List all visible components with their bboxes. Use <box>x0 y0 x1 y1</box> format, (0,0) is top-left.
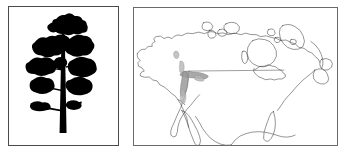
figure-plate: Line outline map of North America includ… <box>0 0 343 154</box>
tree-silhouette-shape <box>25 13 96 133</box>
arctic-small-island-a <box>267 29 275 36</box>
alaska-coastline <box>137 53 185 104</box>
baja-california <box>182 111 201 145</box>
great-bear-lake <box>202 22 213 31</box>
range-coastal-bc <box>179 61 184 73</box>
hudson-bay <box>247 39 277 67</box>
north-america-map-image: Line outline map of North America includ… <box>134 8 337 145</box>
mexico-west-coastline <box>196 116 231 145</box>
newfoundland <box>320 58 333 70</box>
arctic-coastline <box>137 32 319 63</box>
us-canada-border <box>189 70 285 71</box>
great-lakes <box>253 65 285 80</box>
labrador-coastline <box>311 42 323 69</box>
distribution-map-panel: Line outline map of North America includ… <box>133 7 338 146</box>
baffin-island <box>279 24 304 49</box>
lake-winnipeg <box>242 51 248 64</box>
florida-peninsula <box>264 111 276 141</box>
victoria-island <box>224 22 240 34</box>
tree-silhouette-image <box>9 7 118 145</box>
tree-silhouette-panel <box>8 6 119 146</box>
range-alaska-panhandle <box>174 51 180 58</box>
maritime-canada-coastline <box>313 69 329 84</box>
us-east-coastline <box>277 70 314 110</box>
gulf-coastline <box>231 132 295 145</box>
